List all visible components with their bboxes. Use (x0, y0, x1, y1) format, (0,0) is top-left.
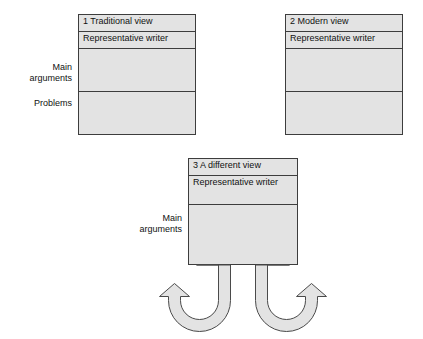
box-row-main-arguments (79, 49, 195, 92)
box-row-main-arguments (286, 49, 402, 92)
box-row-main-arguments (189, 205, 297, 264)
row-label-main-arguments-bottom: Main arguments (114, 213, 182, 235)
box-row-problems (79, 92, 195, 134)
row-label-main-arguments-top: Main arguments (6, 62, 72, 84)
box-row-problems (286, 92, 402, 134)
box-row-representative-writer: Representative writer (79, 32, 195, 49)
box-title-traditional: 1 Traditional view (79, 15, 195, 32)
arrow-right-icon (256, 265, 327, 332)
view-box-modern: 2 Modern view Representative writer (285, 14, 403, 135)
box-row-representative-writer: Representative writer (189, 176, 297, 205)
view-box-traditional: 1 Traditional view Representative writer (78, 14, 196, 135)
view-box-different: 3 A different view Representative writer (188, 158, 298, 265)
arrow-left-icon (160, 265, 231, 332)
diagram-canvas: 1 Traditional view Representative writer… (0, 0, 423, 339)
box-title-modern: 2 Modern view (286, 15, 402, 32)
row-label-problems: Problems (6, 98, 72, 109)
box-title-different: 3 A different view (189, 159, 297, 176)
box-row-representative-writer: Representative writer (286, 32, 402, 49)
